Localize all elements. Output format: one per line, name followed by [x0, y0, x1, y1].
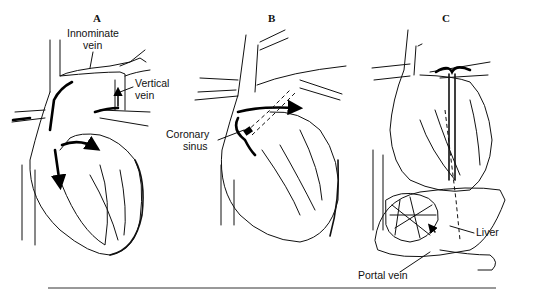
panel-c-label: C — [442, 12, 450, 24]
vertical-vein-c — [449, 74, 455, 180]
ivc-vessel-a — [22, 165, 35, 245]
vertical-vein-label-line1: Vertical — [135, 77, 169, 89]
liver-outline — [375, 188, 505, 257]
panel-b-label: B — [268, 12, 276, 24]
heart-wall-a — [110, 160, 143, 255]
panel-a: A Innominate vein Vertical vein — [12, 12, 169, 255]
portal-leader-line — [400, 252, 430, 272]
innominate-leader-line — [90, 52, 93, 68]
vertical-leader-line — [120, 87, 133, 92]
portal-vein-label: Portal vein — [358, 269, 408, 281]
innominate-vein-label-line1: Innominate — [67, 27, 119, 39]
liver-label: Liver — [476, 226, 499, 238]
heart-chambers-c — [420, 100, 480, 180]
panel-b: B Coronary sinus — [166, 12, 346, 242]
heart-chambers-b — [262, 130, 322, 215]
pulmonary-veins — [12, 110, 150, 126]
flow-arrow-innominate — [50, 82, 72, 130]
heart-outline-c — [390, 30, 492, 191]
innominate-vein-label-line2: vein — [83, 39, 102, 51]
panel-a-label: A — [93, 12, 101, 24]
descending-vein-c — [445, 110, 460, 240]
coronary-sinus-label-line1: Coronary — [166, 128, 210, 140]
heart-outline-b — [221, 35, 338, 242]
portal-vein-vessel — [440, 250, 496, 270]
vertical-vein-label-line2: vein — [135, 89, 154, 101]
coronary-sinus-label-line2: sinus — [183, 140, 208, 152]
branch-vessel — [125, 70, 150, 76]
coronary-sinus-vessel — [236, 118, 255, 155]
panel-c: C Liver Portal vein — [358, 12, 505, 281]
flow-arrow-down-a — [55, 150, 60, 185]
flow-arrow-right-a — [62, 142, 96, 148]
svc-vessel-b — [255, 30, 346, 92]
sinusoid-mesh — [390, 197, 436, 238]
heart-chambers-a — [62, 165, 125, 245]
coronary-sinus-marker — [243, 126, 253, 136]
vessels-c — [372, 44, 490, 80]
coronary-sinus-catheter — [246, 90, 296, 135]
liver-leader-line — [450, 226, 474, 233]
anomalous-venous-return-diagram: A Innominate vein Vertical vein B Corona… — [0, 0, 536, 293]
vertical-vein-vessel — [60, 72, 125, 110]
